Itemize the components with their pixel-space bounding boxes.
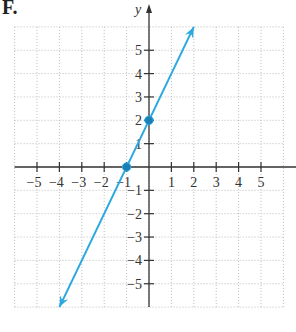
y-tick-label: −3 xyxy=(127,230,142,245)
y-axis-label: y xyxy=(133,2,142,17)
marked-point xyxy=(122,163,130,171)
y-axis-arrow-icon xyxy=(146,4,152,13)
x-tick-label: 3 xyxy=(213,175,220,190)
x-tick-label: 5 xyxy=(258,175,265,190)
x-tick-label: 4 xyxy=(235,175,242,190)
marked-point xyxy=(145,116,153,124)
y-tick-label: 3 xyxy=(135,90,142,105)
x-tick-label: −4 xyxy=(49,175,64,190)
y-tick-label: 5 xyxy=(135,43,142,58)
y-tick-label: −5 xyxy=(127,277,142,292)
coordinate-plane: y−5−4−3−2−112345−5−4−3−2−112345 xyxy=(0,0,296,332)
y-tick-label: −2 xyxy=(127,207,142,222)
x-tick-label: 1 xyxy=(168,175,175,190)
y-tick-label: 2 xyxy=(135,113,142,128)
y-tick-label: −4 xyxy=(127,253,142,268)
y-tick-label: −1 xyxy=(127,183,142,198)
x-tick-label: −2 xyxy=(94,175,109,190)
y-tick-label: 4 xyxy=(135,67,142,82)
x-tick-label: −3 xyxy=(71,175,86,190)
x-tick-label: −5 xyxy=(27,175,42,190)
x-tick-label: 2 xyxy=(190,175,197,190)
